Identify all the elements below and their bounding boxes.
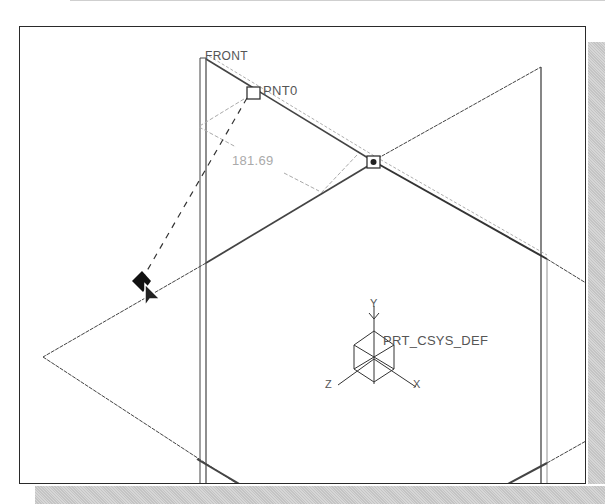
datum-plane-label-front[interactable]: FRONT xyxy=(205,49,248,63)
model-geometry xyxy=(20,27,586,484)
intersection-point-marker[interactable] xyxy=(367,156,380,168)
window-shadow-bottom xyxy=(35,486,605,504)
dimension-value-label[interactable]: 181.69 xyxy=(232,153,274,168)
csys-axis-z-label: Z xyxy=(325,378,332,390)
drag-guide-line xyxy=(144,98,247,276)
datum-point-pnt0-marker[interactable] xyxy=(247,87,260,99)
top-divider xyxy=(70,0,605,1)
dimension-181-69[interactable] xyxy=(198,99,357,193)
drag-cursor-icon xyxy=(132,271,160,306)
sketch-rhombus[interactable] xyxy=(43,163,586,484)
right-plane-edges[interactable] xyxy=(541,67,547,484)
csys-axis-y-label: Y xyxy=(370,297,378,309)
window-shadow-right xyxy=(588,42,605,484)
datum-point-label-pnt0[interactable]: PNT0 xyxy=(263,83,297,98)
csys-axis-x-label: X xyxy=(413,378,421,390)
graphics-viewport[interactable]: FRONT PNT0 181.69 PRT_CSYS_DEF Y Z X xyxy=(19,26,586,484)
csys-label[interactable]: PRT_CSYS_DEF xyxy=(383,333,488,348)
front-datum-plane[interactable] xyxy=(200,58,206,484)
